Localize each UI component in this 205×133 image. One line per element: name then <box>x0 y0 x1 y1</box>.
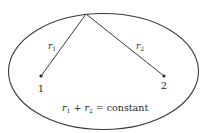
eq-plus: + <box>70 102 84 113</box>
segment-r2-label: r2 <box>136 41 144 52</box>
focus-1-dot <box>39 74 42 77</box>
eq-equals: = <box>93 102 107 113</box>
focus-2-dot <box>162 74 165 77</box>
focus-2-label: 2 <box>161 80 167 91</box>
r2-sub: 2 <box>140 45 144 52</box>
ellipse-foci-diagram: 1 2 r1 r2 r1 + r2 = constant <box>0 0 205 133</box>
segment-r2 <box>86 14 164 76</box>
equation: r1 + r2 = constant <box>62 102 148 114</box>
focus-1-label: 1 <box>38 83 44 94</box>
segment-r1-label: r1 <box>48 41 56 52</box>
eq-rhs: constant <box>107 102 149 113</box>
r1-sub: 1 <box>52 45 56 52</box>
